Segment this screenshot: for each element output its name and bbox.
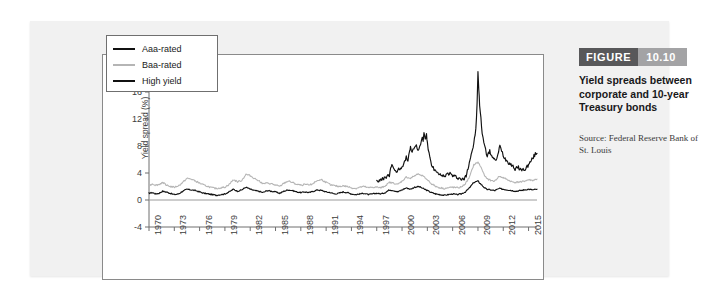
x-axis-tick-label: 1997 [381,215,391,235]
x-axis-tick-label: 1985 [280,215,290,235]
figure-header: FIGURE 10.10 [579,48,687,66]
legend-item-high-yield: High yield [113,73,211,89]
x-axis-tick-label: 1976 [204,215,214,235]
chart-legend: Aaa-rated Baa-rated High yield [106,35,218,92]
legend-label-baa: Baa-rated [142,60,182,70]
figure-label: FIGURE [579,48,638,66]
y-axis-tick-label: 0 [137,195,142,205]
figure-source: Source: Federal Reserve Bank of St. Loui… [579,133,699,156]
x-axis-tick-label: 1991 [330,215,340,235]
legend-swatch-baa [113,64,135,66]
legend-swatch-high-yield [113,80,135,82]
legend-label-high-yield: High yield [142,76,182,86]
x-axis-tick-label: 2012 [507,215,517,235]
x-axis-tick-label: 2015 [533,215,543,235]
page-root: Yield spread (%) 201612840-4197019731976… [0,0,702,294]
y-axis-tick-label: 12 [132,114,142,124]
legend-swatch-aaa [113,48,135,50]
x-axis-tick-label: 2000 [406,215,416,235]
x-axis-tick-label: 1994 [355,215,365,235]
figure-caption: Yield spreads between corporate and 10-y… [579,74,699,115]
y-axis-tick-label: 4 [137,168,142,178]
figure-number: 10.10 [638,48,687,66]
y-axis-tick-label: -4 [134,222,142,232]
figure-panel: Yield spread (%) 201612840-4197019731976… [30,21,669,276]
x-axis-tick-label: 1988 [305,215,315,235]
x-axis-tick-label: 2009 [482,215,492,235]
x-axis-tick-label: 1973 [178,215,188,235]
y-axis-tick-label: 8 [137,141,142,151]
legend-label-aaa: Aaa-rated [142,44,182,54]
x-axis-tick-label: 1970 [153,215,163,235]
legend-item-baa: Baa-rated [113,57,211,73]
x-axis-tick-label: 1982 [254,215,264,235]
x-axis-tick-label: 1979 [229,215,239,235]
x-axis-tick-label: 2003 [431,215,441,235]
x-axis-tick-label: 2006 [457,215,467,235]
legend-item-aaa: Aaa-rated [113,41,211,57]
